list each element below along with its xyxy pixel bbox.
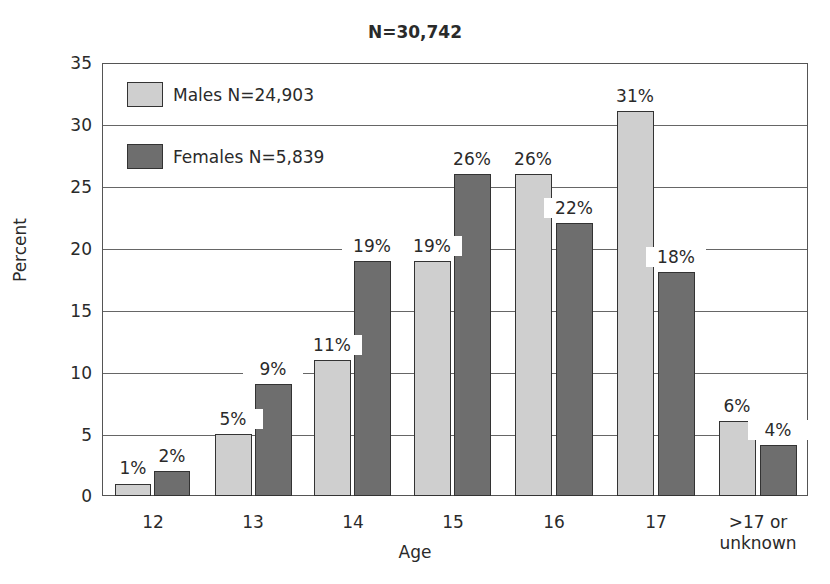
legend-label-males: Males N=24,903 <box>173 84 320 106</box>
x-tick-13: 13 <box>203 512 303 533</box>
x-tick-15: 15 <box>403 512 503 533</box>
bar-females-over17 <box>760 445 797 496</box>
value-label-females-14: 19% <box>342 236 402 256</box>
x-tick-over17-line1: >17 or <box>708 512 808 533</box>
value-label-males-over17: 6% <box>707 396 767 416</box>
bar-females-16 <box>556 223 593 496</box>
y-tick-35: 35 <box>52 53 92 73</box>
y-tick-5: 5 <box>52 425 92 445</box>
y-tick-15: 15 <box>52 301 92 321</box>
bar-females-13 <box>255 384 292 496</box>
legend-label-females: Females N=5,839 <box>173 146 330 168</box>
value-label-females-13: 9% <box>243 359 303 379</box>
value-label-males-17: 31% <box>605 86 665 106</box>
y-tick-25: 25 <box>52 177 92 197</box>
y-tick-10: 10 <box>52 363 92 383</box>
bar-males-14 <box>314 360 351 496</box>
y-tick-0: 0 <box>52 486 92 506</box>
x-tick-17: 17 <box>606 512 706 533</box>
value-label-males-13: 5% <box>203 409 263 429</box>
value-label-females-16: 22% <box>544 198 604 218</box>
value-label-males-14: 11% <box>302 335 362 355</box>
bar-males-16 <box>515 174 552 496</box>
value-label-females-15: 26% <box>442 149 502 169</box>
x-tick-16: 16 <box>504 512 604 533</box>
x-tick-12: 12 <box>103 512 203 533</box>
y-axis-label: Percent <box>10 202 30 282</box>
bar-females-17 <box>658 272 695 496</box>
value-label-females-over17: 4% <box>748 420 808 440</box>
bar-males-15 <box>414 261 451 496</box>
legend-swatch-males <box>127 82 163 107</box>
value-label-females-12: 2% <box>142 446 202 466</box>
x-tick-14: 14 <box>303 512 403 533</box>
bar-males-17 <box>617 111 654 496</box>
y-tick-30: 30 <box>52 115 92 135</box>
chart-title: N=30,742 <box>0 22 830 42</box>
value-label-males-16: 26% <box>503 149 563 169</box>
value-label-females-17: 18% <box>646 247 706 267</box>
bar-females-14 <box>354 261 391 496</box>
bar-males-12 <box>115 484 151 496</box>
x-axis-label: Age <box>0 542 830 562</box>
bar-females-15 <box>454 174 491 496</box>
legend-swatch-females <box>127 144 163 169</box>
value-label-males-15: 19% <box>402 236 462 256</box>
bar-males-13 <box>215 434 252 496</box>
y-tick-20: 20 <box>52 239 92 259</box>
